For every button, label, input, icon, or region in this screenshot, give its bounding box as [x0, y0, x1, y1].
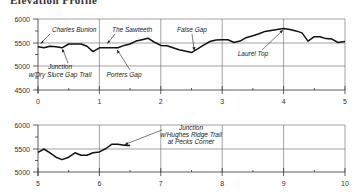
top-x-tick-label: 5 — [343, 98, 347, 105]
annotation-charles-bunion: Charles Bunion — [52, 26, 97, 33]
top-y-tick-label: 4500 — [14, 87, 30, 94]
arrow-porters-gap — [118, 51, 130, 70]
annotation-junction-dry-sluce-line2: w/Dry Sluce Gap Trail — [29, 71, 92, 79]
elevation-charts: 6000 5500 5000 4500 0 1 2 3 4 5 Charles … — [0, 0, 359, 195]
arrow-laurel-top — [262, 31, 282, 50]
annotation-junction-dry-sluce-line1: Junction — [47, 63, 73, 70]
annotation-junction-hughes-line3: at Pecks Corner — [168, 138, 215, 145]
bottom-x-tick-label: 6 — [97, 180, 101, 187]
top-x-tick-label: 0 — [36, 98, 40, 105]
bottom-x-tick-label: 9 — [282, 180, 286, 187]
bottom-y-tick-label: 5500 — [14, 146, 30, 153]
arrow-head-icon — [62, 49, 65, 53]
annotation-porters-gap: Porters Gap — [106, 71, 141, 79]
bottom-y-tick-label: 6000 — [14, 122, 30, 129]
bottom-x-tick-label: 5 — [36, 180, 40, 187]
annotation-the-sawteeth: The Sawteeth — [112, 26, 152, 33]
top-x-tick-label: 1 — [97, 98, 101, 105]
arrow-head-icon — [124, 142, 128, 145]
bottom-x-tick-label: 8 — [220, 180, 224, 187]
bottom-x-tick-label: 10 — [341, 180, 349, 187]
bottom-y-tick-label: 5000 — [14, 169, 30, 176]
top-y-tick-label: 5000 — [14, 63, 30, 70]
top-y-tick-label: 5500 — [14, 40, 30, 47]
top-x-tick-label: 4 — [282, 98, 286, 105]
bottom-elevation-line — [38, 144, 130, 159]
top-x-tick-label: 2 — [159, 98, 163, 105]
annotation-junction-hughes-line1: Junction — [178, 124, 204, 131]
top-chart: 6000 5500 5000 4500 0 1 2 3 4 5 Charles … — [14, 16, 347, 106]
annotation-laurel-top: Laurel Top — [238, 50, 269, 58]
arrow-false-gap — [192, 34, 194, 49]
arrow-junction-hughes — [126, 130, 162, 144]
annotation-false-gap: False Gap — [177, 26, 207, 34]
top-y-tick-label: 6000 — [14, 16, 30, 23]
bottom-chart: 6000 5500 5000 5 6 7 8 9 10 Junction w/H… — [14, 122, 349, 188]
bottom-x-tick-label: 7 — [159, 180, 163, 187]
top-x-tick-label: 3 — [220, 98, 224, 105]
arrow-junction-dry-sluce — [63, 50, 68, 63]
